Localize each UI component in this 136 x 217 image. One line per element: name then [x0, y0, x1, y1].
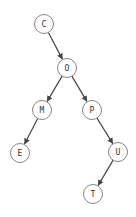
tree-node-t: T — [84, 185, 103, 204]
node-label: C — [42, 20, 47, 29]
tree-node-m: M — [33, 101, 52, 120]
tree-node-c: C — [35, 15, 54, 34]
edge-c-o — [48, 32, 62, 59]
node-label: O — [65, 64, 70, 73]
tree-node-p: P — [83, 101, 102, 120]
edge-m-e — [25, 118, 38, 144]
edge-u-t — [98, 160, 113, 185]
tree-diagram: COMPEUT — [0, 0, 136, 217]
tree-node-o: O — [58, 59, 77, 78]
nodes-group: COMPEUT — [11, 15, 128, 204]
edge-o-p — [72, 76, 87, 101]
edge-p-u — [97, 118, 113, 143]
tree-node-e: E — [11, 144, 30, 163]
node-label: T — [91, 190, 96, 199]
node-label: P — [90, 106, 95, 115]
edge-o-m — [47, 76, 62, 101]
node-label: M — [40, 106, 45, 115]
node-label: U — [116, 148, 121, 157]
tree-node-u: U — [109, 143, 128, 162]
node-label: E — [18, 149, 23, 158]
